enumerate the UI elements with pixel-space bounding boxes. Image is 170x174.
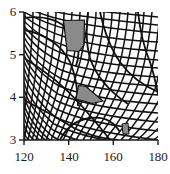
- figure-container: 6 5 4 3 120 140 160 180: [0, 0, 170, 174]
- y-tick-label-6: 6: [2, 5, 16, 18]
- y-tick-label-3: 3: [2, 133, 16, 146]
- y-tick-label-5: 5: [2, 48, 16, 61]
- x-tick-label-140: 140: [51, 150, 87, 163]
- shaded-region-upper: [64, 20, 85, 52]
- x-tick-label-120: 120: [6, 150, 42, 163]
- plot-svg: [0, 0, 170, 174]
- y-tick-label-4: 4: [2, 90, 16, 103]
- shaded-region-sliver: [122, 123, 129, 134]
- x-tick-label-160: 160: [95, 150, 131, 163]
- x-tick-label-180: 180: [140, 150, 170, 163]
